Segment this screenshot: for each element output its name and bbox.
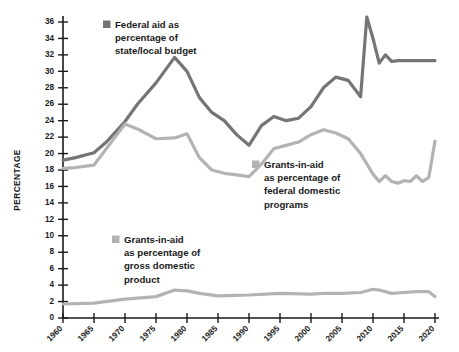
y-tick-label: 8 <box>49 247 54 256</box>
y-tick-label: 36 <box>45 17 55 26</box>
y-axis-title: PERCENTAGE <box>12 149 22 211</box>
legend-label-line: as percentage of <box>264 172 341 183</box>
y-tick-label: 6 <box>49 264 54 273</box>
y-tick-label: 18 <box>45 165 55 174</box>
y-tick-label: 0 <box>49 313 54 322</box>
legend-label-line: Grants-in-aid <box>264 159 324 170</box>
legend-label-line: programs <box>264 199 308 210</box>
legend-label-line: state/local budget <box>115 45 197 56</box>
y-tick-label: 10 <box>45 231 55 240</box>
legend-label-line: Federal aid as <box>115 19 179 30</box>
legend-label-line: federal domestic <box>264 185 341 196</box>
y-tick-label: 14 <box>45 198 55 207</box>
line-chart: 024681012141618202224262830323436 196019… <box>0 0 459 352</box>
legend-label-line: as percentage of <box>124 247 201 258</box>
legend-label-line: product <box>124 274 161 285</box>
y-tick-label: 2 <box>49 297 54 306</box>
y-tick-label: 22 <box>45 132 55 141</box>
legend-label-line: percentage of <box>115 32 179 43</box>
y-tick-label: 16 <box>45 182 55 191</box>
y-tick-label: 12 <box>45 215 55 224</box>
y-tick-label: 20 <box>45 149 55 158</box>
legend-swatch <box>112 236 120 244</box>
y-tick-label: 30 <box>45 67 55 76</box>
legend-swatch <box>103 21 111 29</box>
y-tick-label: 26 <box>45 99 55 108</box>
y-tick-label: 34 <box>45 34 55 43</box>
chart-background <box>0 0 459 352</box>
legend-swatch <box>252 161 260 169</box>
legend-label-line: gross domestic <box>124 260 196 271</box>
y-tick-label: 32 <box>45 50 55 59</box>
y-tick-label: 28 <box>45 83 55 92</box>
legend-label-line: Grants-in-aid <box>124 234 184 245</box>
y-tick-label: 4 <box>49 280 54 289</box>
y-tick-label: 24 <box>45 116 55 125</box>
